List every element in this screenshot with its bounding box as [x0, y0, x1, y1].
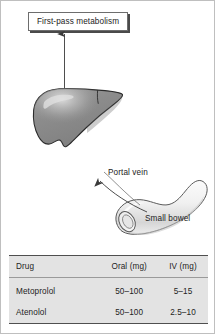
- cell-iv-dose: 5–15: [158, 278, 208, 303]
- table-row: Atenolol 50–100 2.5–10: [9, 302, 208, 324]
- cell-drug-name: Metoprolol: [9, 278, 100, 303]
- cell-oral-dose: 50–100: [100, 302, 158, 324]
- first-pass-metabolism-figure: First-pass metabolism: [0, 0, 215, 334]
- cell-oral-dose: 50–100: [100, 278, 158, 303]
- table-row: Metoprolol 50–100 5–15: [9, 278, 208, 303]
- cell-drug-name: Atenolol: [9, 302, 100, 324]
- column-header-drug: Drug: [9, 256, 100, 278]
- column-header-iv: IV (mg): [158, 256, 208, 278]
- cell-iv-dose: 2.5–10: [158, 302, 208, 324]
- small-bowel-shape: [115, 180, 207, 234]
- portal-vein-label: Portal vein: [108, 168, 148, 177]
- drug-dose-table: Drug Oral (mg) IV (mg) Metoprolol 50–100…: [9, 255, 208, 324]
- small-bowel-label: Small bowel: [145, 214, 190, 223]
- table-header-row: Drug Oral (mg) IV (mg): [9, 256, 208, 278]
- liver-shape: [33, 89, 122, 147]
- column-header-oral: Oral (mg): [100, 256, 158, 278]
